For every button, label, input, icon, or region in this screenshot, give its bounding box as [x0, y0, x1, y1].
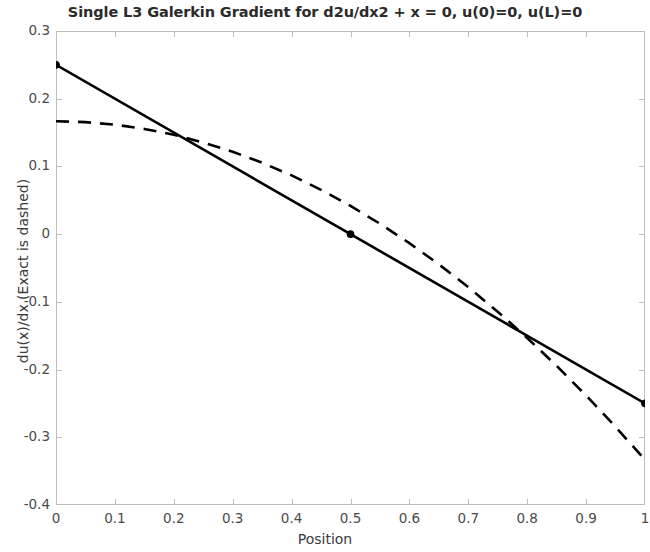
x-tick-label: 0.2 — [149, 512, 199, 526]
x-axis-label: Position — [0, 531, 650, 547]
x-tick-label: 0.1 — [90, 512, 140, 526]
y-axis-label: du(x)/dx (Exact is dashed) — [15, 121, 31, 421]
x-tick-label: 0.4 — [267, 512, 317, 526]
x-tick-label: 0.8 — [502, 512, 552, 526]
x-tick-label: 0.7 — [443, 512, 493, 526]
x-axis-tick-labels: 00.10.20.30.40.50.60.70.80.91 — [0, 0, 650, 552]
x-tick-label: 0.5 — [326, 512, 376, 526]
x-tick-label: 1 — [620, 512, 650, 526]
x-tick-label: 0.3 — [208, 512, 258, 526]
x-tick-label: 0.9 — [561, 512, 611, 526]
figure-canvas: Single L3 Galerkin Gradient for d2u/dx2 … — [0, 0, 650, 552]
x-tick-label: 0 — [31, 512, 81, 526]
x-tick-label: 0.6 — [384, 512, 434, 526]
